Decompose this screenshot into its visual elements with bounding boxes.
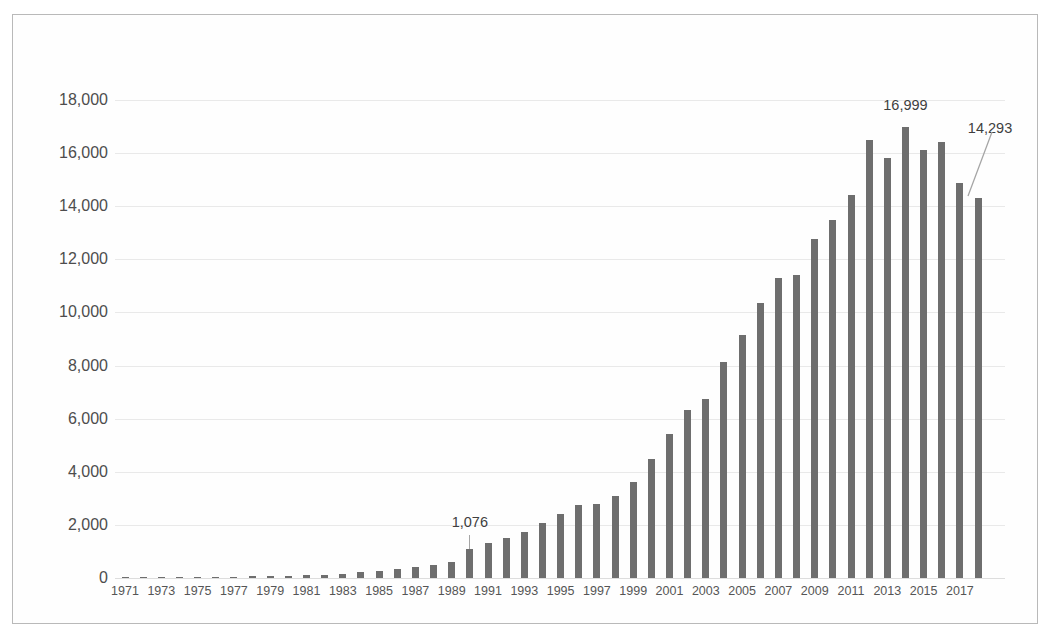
x-tick-label: 2007	[764, 584, 792, 598]
x-tick-label: 1989	[438, 584, 466, 598]
bar	[575, 505, 582, 578]
bar-chart: 02,0004,0006,0008,00010,00012,00014,0001…	[0, 0, 1050, 644]
bar	[666, 434, 673, 578]
bar	[902, 127, 909, 578]
bar	[793, 275, 800, 578]
bar	[485, 543, 492, 578]
y-tick-label: 0	[99, 569, 108, 587]
x-tick-label: 1983	[329, 584, 357, 598]
bar	[230, 577, 237, 578]
x-tick-label: 1981	[293, 584, 321, 598]
leader-line-icon	[955, 128, 1015, 200]
x-tick-label: 1973	[147, 584, 175, 598]
bar	[811, 239, 818, 578]
value-annotation: 1,076	[452, 514, 488, 530]
bar	[648, 459, 655, 579]
bar	[975, 198, 982, 578]
bar	[720, 362, 727, 578]
bar	[448, 562, 455, 578]
chart-figure: 02,0004,0006,0008,00010,00012,00014,0001…	[0, 0, 1050, 644]
y-tick-label: 2,000	[68, 516, 108, 534]
bar	[521, 532, 528, 578]
bar	[122, 577, 129, 578]
bar	[593, 504, 600, 578]
bar	[412, 567, 419, 578]
y-tick-label: 18,000	[59, 91, 108, 109]
bar	[775, 278, 782, 578]
y-tick-label: 8,000	[68, 357, 108, 375]
bar	[684, 410, 691, 578]
bar	[285, 576, 292, 578]
bar	[194, 577, 201, 578]
x-tick-label: 2009	[801, 584, 829, 598]
x-tick-label: 2003	[692, 584, 720, 598]
y-tick-label: 6,000	[68, 410, 108, 428]
bar	[394, 569, 401, 578]
bar	[884, 158, 891, 578]
x-tick-label: 1993	[510, 584, 538, 598]
bar	[176, 577, 183, 578]
bar	[212, 577, 219, 578]
x-tick-label: 2005	[728, 584, 756, 598]
value-annotation: 14,293	[968, 120, 1012, 136]
x-tick-label: 2011	[838, 584, 865, 598]
y-tick-label: 4,000	[68, 463, 108, 481]
x-tick-label: 1991	[474, 584, 502, 598]
y-tick-label: 12,000	[59, 250, 108, 268]
bar	[539, 523, 546, 578]
x-tick-label: 2013	[873, 584, 901, 598]
bar	[702, 399, 709, 578]
bar	[430, 565, 437, 578]
bar	[829, 220, 836, 579]
x-tick-label: 2001	[656, 584, 684, 598]
y-tick-label: 16,000	[59, 144, 108, 162]
bar	[249, 576, 256, 578]
gridline	[115, 578, 1005, 579]
bar	[267, 576, 274, 578]
bar	[357, 572, 364, 578]
x-tick-label: 2017	[946, 584, 974, 598]
bar	[866, 140, 873, 578]
x-tick-label: 1995	[547, 584, 575, 598]
bar	[630, 482, 637, 578]
bar	[339, 574, 346, 578]
y-tick-label: 10,000	[59, 303, 108, 321]
gridline	[115, 100, 1005, 101]
x-tick-label: 1971	[111, 584, 139, 598]
bar	[376, 571, 383, 578]
bar	[158, 577, 165, 578]
bar	[739, 335, 746, 578]
bar	[757, 303, 764, 578]
bar	[938, 142, 945, 578]
x-tick-label: 1979	[256, 584, 284, 598]
y-tick-label: 14,000	[59, 197, 108, 215]
y-axis: 02,0004,0006,0008,00010,00012,00014,0001…	[28, 0, 108, 644]
bar	[466, 549, 473, 578]
bar	[140, 577, 147, 578]
x-tick-label: 1975	[184, 584, 212, 598]
x-tick-label: 2015	[910, 584, 938, 598]
x-tick-label: 1987	[401, 584, 429, 598]
bar	[557, 514, 564, 578]
bar	[848, 195, 855, 578]
bar	[612, 496, 619, 578]
bar	[920, 150, 927, 578]
value-annotation: 16,999	[883, 97, 927, 113]
bar	[303, 575, 310, 578]
x-tick-label: 1985	[365, 584, 393, 598]
bar	[503, 538, 510, 578]
bar	[321, 575, 328, 578]
bar	[956, 183, 963, 578]
leader-tick-icon	[469, 535, 470, 549]
x-tick-label: 1999	[619, 584, 647, 598]
x-tick-label: 1977	[220, 584, 248, 598]
x-tick-label: 1997	[583, 584, 611, 598]
